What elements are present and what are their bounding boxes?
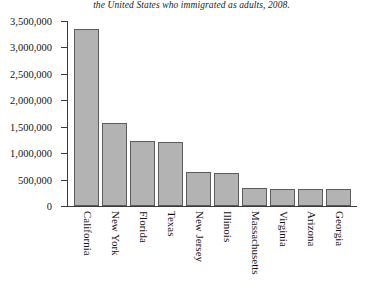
y-axis-tick: 1,500,000 <box>61 127 68 128</box>
y-axis-tick-label: 500,000 <box>18 174 52 185</box>
x-axis-label-slot: New Jersey <box>186 211 211 292</box>
bar <box>186 172 211 206</box>
bar <box>74 29 99 206</box>
bar <box>298 189 323 206</box>
x-axis-category-label: Illinois <box>221 211 232 242</box>
y-axis-tick-label: 3,000,000 <box>10 42 52 53</box>
bar <box>130 141 155 206</box>
y-axis-tick: 2,000,000 <box>61 100 68 101</box>
y-axis-tick: 2,500,000 <box>61 74 68 75</box>
y-axis-tick: 500,000 <box>61 180 68 181</box>
x-axis-category-label: California <box>81 211 92 256</box>
x-axis-line <box>67 206 357 207</box>
y-axis-tick-label: 2,500,000 <box>10 68 52 79</box>
y-axis-tick: 3,000,000 <box>61 47 68 48</box>
y-axis-tick-label: 3,500,000 <box>10 16 52 27</box>
x-axis-label-slot: California <box>74 211 99 292</box>
y-axis-tick-label: 0 <box>47 201 52 212</box>
x-axis-label-slot: Georgia <box>326 211 351 292</box>
bar <box>158 142 183 206</box>
bar <box>102 123 127 206</box>
y-axis-tick: 0 <box>61 206 68 207</box>
x-axis-category-label: Massachusetts <box>249 211 260 275</box>
x-axis-label-slot: Massachusetts <box>242 211 267 292</box>
y-axis-tick-label: 2,000,000 <box>10 95 52 106</box>
x-axis-category-label: Arizona <box>305 211 316 246</box>
x-axis-category-label: New Jersey <box>193 211 204 262</box>
x-axis-category-label: Georgia <box>333 211 344 246</box>
y-axis-tick: 3,500,000 <box>61 21 68 22</box>
chart-caption: the United States who immigrated as adul… <box>0 0 383 11</box>
y-axis-tick-label: 1,500,000 <box>10 121 52 132</box>
x-axis-category-label: Florida <box>137 211 148 243</box>
x-axis-category-label: New York <box>109 211 120 256</box>
x-axis-category-label: Texas <box>165 211 176 237</box>
y-axis-tick: 1,000,000 <box>61 153 68 154</box>
y-axis-tick-label: 1,000,000 <box>10 148 52 159</box>
x-axis-label-slot: Arizona <box>298 211 323 292</box>
bar-chart-figure: the United States who immigrated as adul… <box>0 0 383 292</box>
x-axis-category-label: Virginia <box>277 211 288 247</box>
x-axis-label-slot: New York <box>102 211 127 292</box>
x-axis-label-slot: Florida <box>130 211 155 292</box>
bar <box>214 173 239 206</box>
bar <box>326 189 351 206</box>
x-axis-label-slot: Virginia <box>270 211 295 292</box>
bar <box>242 188 267 206</box>
x-axis-label-slot: Illinois <box>214 211 239 292</box>
plot-area: 0500,0001,000,0001,500,0002,000,0002,500… <box>67 21 357 206</box>
bar <box>270 189 295 206</box>
x-axis-label-slot: Texas <box>158 211 183 292</box>
